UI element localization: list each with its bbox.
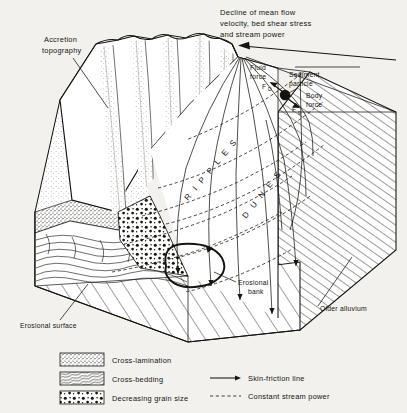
legend-label-skin-friction-line: Skin-friction line: [248, 374, 305, 383]
erosional-surface-text: Erosional surface: [20, 322, 77, 329]
fluid-force-symbol: F: [262, 83, 266, 90]
accretion-label-line1: Accretion: [44, 35, 77, 44]
block-diagram-svg: Decline of mean flow velocity, bed shear…: [0, 0, 407, 413]
fluid-force-symbol-subscript: D: [268, 86, 272, 92]
top-caption-line3: and stream power: [220, 30, 285, 39]
body-force-line1: Body: [306, 92, 323, 100]
erosional-bank-line2: bank: [248, 288, 264, 295]
legend-swatch-cross-lamination: [60, 353, 104, 366]
sediment-particle-line1: Sediment: [289, 71, 320, 78]
older-alluvium-text: Older alluvium: [320, 305, 367, 312]
sediment-particle-line2: particle: [289, 80, 313, 88]
legend-swatch-cross-bedding: [60, 372, 104, 385]
fluid-force-line2: force: [250, 73, 266, 80]
legend-label-cross-bedding: Cross-bedding: [112, 375, 163, 384]
fluid-force-line1: Fluid: [250, 64, 266, 71]
legend-label-decreasing-grain-size: Decreasing grain size: [112, 394, 188, 403]
top-caption-line2: velocity, bed shear stress: [220, 19, 312, 28]
legend-label-cross-lamination: Cross-lamination: [112, 356, 171, 365]
legend-swatch-decreasing-grain-size: [60, 391, 104, 404]
figure-canvas: Decline of mean flow velocity, bed shear…: [0, 0, 407, 413]
accretion-label-line2: topography: [42, 46, 82, 55]
body-force-symbol-subscript: g: [298, 109, 301, 115]
body-force-line2: force: [306, 101, 322, 108]
top-caption-line1: Decline of mean flow: [220, 8, 296, 17]
erosional-bank-line1: Erosional: [238, 279, 269, 286]
legend-label-constant-stream-power: Constant stream power: [248, 392, 330, 401]
